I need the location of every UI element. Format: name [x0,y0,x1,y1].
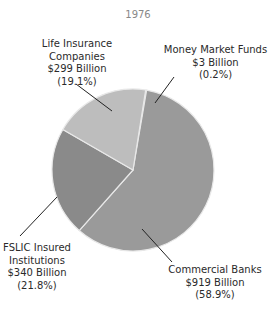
leader-fslic [20,197,57,236]
label-fslic: FSLIC Insured Institutions $340 Billion … [0,242,74,292]
label-life-insurance: Life Insurance Companies $299 Billion (1… [22,38,132,88]
label-commercial-banks: Commercial Banks $919 Billion (58.9%) [160,264,270,302]
label-money-market: Money Market Funds $3 Billion (0.2%) [158,44,273,82]
